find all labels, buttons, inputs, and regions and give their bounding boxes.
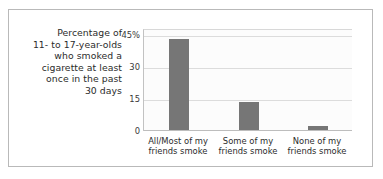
bar-some-friends-smoke: [239, 102, 259, 130]
chart-figure: Percentage of 11- to 17-year-olds who sm…: [0, 0, 383, 179]
x-label-2-line-1: None of my: [281, 136, 353, 146]
caption-line-2: 11- to 17-year-olds: [14, 39, 122, 51]
x-label-all-most-friends-smoke: All/Most of my friends smoke: [142, 136, 214, 157]
x-label-1-line-2: friends smoke: [212, 146, 284, 156]
plot-area: [143, 29, 352, 131]
x-label-1-line-1: Some of my: [212, 136, 284, 146]
x-axis-category-labels: All/Most of my friends smoke Some of my …: [143, 136, 352, 162]
x-label-some-friends-smoke: Some of my friends smoke: [212, 136, 284, 157]
bar-all-most-friends-smoke: [169, 39, 189, 130]
chart-caption: Percentage of 11- to 17-year-olds who sm…: [14, 27, 122, 97]
axis-baseline: [144, 130, 352, 131]
x-label-none-friends-smoke: None of my friends smoke: [281, 136, 353, 157]
y-axis-tick-labels: 45% 30 15 0: [112, 29, 140, 131]
caption-line-5: once in the past: [14, 73, 122, 85]
x-label-0-line-1: All/Most of my: [142, 136, 214, 146]
y-tick-label-15: 15: [114, 95, 140, 104]
caption-line-6: 30 days: [14, 85, 122, 97]
gridline-45: [144, 36, 352, 37]
y-tick-label-0: 0: [114, 127, 140, 136]
caption-line-1: Percentage of: [14, 27, 122, 39]
x-label-0-line-2: friends smoke: [142, 146, 214, 156]
y-tick-label-30: 30: [114, 63, 140, 72]
caption-line-4: cigarette at least: [14, 62, 122, 74]
caption-line-3: who smoked a: [14, 50, 122, 62]
x-label-2-line-2: friends smoke: [281, 146, 353, 156]
plot-inner: [144, 30, 352, 131]
y-tick-label-45: 45%: [114, 31, 140, 40]
bar-none-friends-smoke: [308, 126, 328, 130]
